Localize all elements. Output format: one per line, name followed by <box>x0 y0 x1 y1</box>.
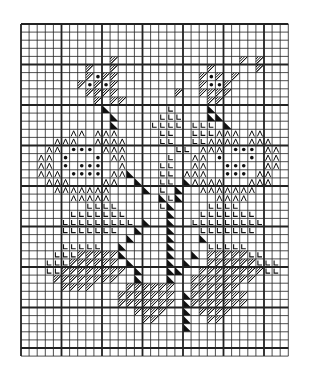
stitch-l-symbol <box>234 228 238 233</box>
stitch-diagonal-hatch <box>134 299 142 307</box>
stitch-diagonal-hatch <box>224 89 232 97</box>
stitch-black-triangle <box>134 275 142 283</box>
stitch-l-symbol <box>169 131 173 136</box>
stitch-l-symbol <box>64 228 68 233</box>
stitch-l-symbol <box>242 228 246 233</box>
stitch-diagonal-hatch <box>207 251 215 259</box>
stitch-l-symbol <box>112 204 116 209</box>
stitch-arch <box>120 147 125 153</box>
stitch-l-symbol <box>201 131 205 136</box>
stitch-diagonal-hatch <box>256 56 264 64</box>
stitch-diagonal-hatch <box>232 267 240 275</box>
stitch-diagonal-hatch <box>159 291 167 299</box>
stitch-l-symbol <box>217 204 221 209</box>
stitch-l-symbol <box>161 115 165 120</box>
stitch-diagonal-hatch <box>224 308 232 316</box>
stitch-dot <box>64 164 68 168</box>
stitch-l-symbol <box>88 220 92 225</box>
stitch-arch <box>201 179 206 185</box>
stitch-l-symbol <box>193 139 197 144</box>
stitch-arch <box>233 131 238 137</box>
stitch-dot <box>80 172 84 176</box>
stitch-diagonal-hatch <box>134 308 142 316</box>
stitch-diagonal-hatch <box>110 89 118 97</box>
stitch-diagonal-hatch <box>94 267 102 275</box>
stitch-diagonal-hatch <box>159 308 167 316</box>
stitch-l-symbol <box>226 228 230 233</box>
stitch-arch <box>201 163 206 169</box>
stitch-black-triangle <box>167 243 175 251</box>
stitch-arch <box>249 188 254 194</box>
stitch-diagonal-hatch <box>232 251 240 259</box>
stitch-diagonal-hatch <box>143 308 151 316</box>
stitch-diagonal-hatch <box>240 299 248 307</box>
stitch-l-symbol <box>47 269 51 274</box>
stitch-diagonal-hatch <box>224 259 232 267</box>
stitch-arch <box>209 147 214 153</box>
stitch-diagonal-hatch <box>215 275 223 283</box>
stitch-diagonal-hatch <box>191 275 199 283</box>
stitch-diagonal-hatch <box>224 291 232 299</box>
stitch-black-triangle <box>183 308 191 316</box>
stitch-diagonal-hatch <box>240 275 248 283</box>
stitch-arch <box>193 171 198 177</box>
stitch-arch <box>233 196 238 202</box>
stitch-l-symbol <box>169 171 173 176</box>
stitch-diagonal-hatch <box>207 267 215 275</box>
stitch-diagonal-hatch <box>207 65 215 73</box>
stitch-l-symbol <box>217 212 221 217</box>
stitch-arch <box>95 139 100 145</box>
stitch-arch <box>39 163 44 169</box>
stitch-diagonal-hatch <box>256 267 264 275</box>
stitch-diagonal-hatch <box>143 316 151 324</box>
stitch-arch <box>55 139 60 145</box>
stitch-l-symbol <box>128 220 132 225</box>
stitch-l-symbol <box>201 123 205 128</box>
stitch-arch <box>266 147 271 153</box>
stitch-diagonal-hatch <box>126 299 134 307</box>
stitch-diagonal-hatch <box>94 251 102 259</box>
stitch-black-triangle <box>110 121 118 129</box>
stitch-l-symbol <box>161 163 165 168</box>
stitch-dot <box>80 164 84 168</box>
stitch-black-triangle <box>110 113 118 121</box>
stitch-diagonal-hatch <box>126 291 134 299</box>
stitch-diagonal-hatch <box>70 275 78 283</box>
stitch-arch <box>79 196 84 202</box>
stitch-diagonal-hatch <box>159 299 167 307</box>
stitch-l-symbol <box>193 220 197 225</box>
stitch-arch <box>249 139 254 145</box>
stitch-diagonal-hatch <box>78 283 86 291</box>
stitch-dot <box>234 172 238 176</box>
stitch-l-symbol <box>161 123 165 128</box>
stitch-black-triangle <box>134 178 142 186</box>
stitch-arch <box>104 139 109 145</box>
stitch-l-symbol <box>234 212 238 217</box>
stitch-arch <box>266 139 271 145</box>
stitch-dot <box>218 83 222 87</box>
stitch-diagonal-hatch <box>94 275 102 283</box>
stitch-arch <box>104 147 109 153</box>
stitch-l-symbol <box>80 220 84 225</box>
stitch-diagonal-hatch <box>191 283 199 291</box>
stitch-diagonal-hatch <box>78 259 86 267</box>
stitch-diagonal-hatch <box>62 283 70 291</box>
stitch-arch <box>47 155 52 161</box>
stitch-l-symbol <box>88 204 92 209</box>
stitch-diagonal-hatch <box>151 308 159 316</box>
stitch-arch <box>47 171 52 177</box>
stitch-diagonal-hatch <box>110 251 118 259</box>
stitch-black-triangle <box>224 121 232 129</box>
stitch-arch <box>47 147 52 153</box>
stitch-diagonal-hatch <box>167 291 175 299</box>
stitch-l-symbol <box>177 123 181 128</box>
stitch-arch <box>233 188 238 194</box>
stitch-arch <box>201 155 206 161</box>
stitch-arch <box>55 179 60 185</box>
stitch-l-symbol <box>201 212 205 217</box>
stitch-diagonal-hatch <box>215 283 223 291</box>
stitch-l-symbol <box>217 244 221 249</box>
stitch-diagonal-hatch <box>256 65 264 73</box>
stitch-black-triangle <box>167 210 175 218</box>
stitch-diagonal-hatch <box>215 291 223 299</box>
